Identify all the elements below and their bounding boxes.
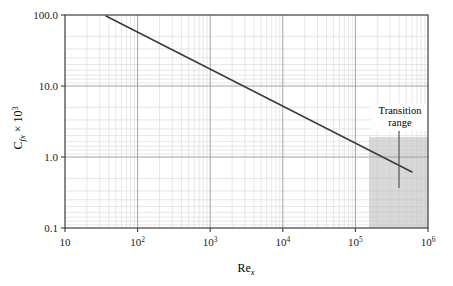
transition-range-annotation: Transition range — [371, 104, 429, 131]
y-axis-title: Cfx × 103 — [11, 107, 27, 150]
figure-container: Transition range 100.0 10.0 1.0 0.1 — [0, 0, 453, 286]
x-tick-label-1e4: 104 — [275, 235, 290, 248]
x-tick-label-1e5: 105 — [348, 235, 363, 248]
x-tick-labels: 10 102 103 104 105 106 — [60, 235, 436, 248]
y-tick-labels: 100.0 10.0 1.0 0.1 — [33, 9, 58, 234]
x-tick-marks — [65, 228, 428, 232]
x-tick-label-1e2: 102 — [130, 235, 145, 248]
series-laminar-skin-friction — [106, 16, 412, 172]
y-tick-label-100: 100.0 — [33, 9, 58, 21]
x-axis-title: Rex — [237, 261, 254, 277]
y-tick-label-10: 10.0 — [39, 80, 59, 92]
x-tick-label-1e6: 106 — [421, 235, 436, 248]
transition-annotation-line2: range — [388, 117, 412, 128]
log-log-chart: Transition range 100.0 10.0 1.0 0.1 — [0, 0, 453, 286]
x-tick-label-1e3: 103 — [203, 235, 218, 248]
y-tick-label-0.1: 0.1 — [44, 222, 58, 234]
transition-annotation-line1: Transition — [379, 105, 423, 116]
y-tick-label-1: 1.0 — [44, 151, 58, 163]
x-tick-label-10: 10 — [60, 236, 72, 248]
grid-major-vertical — [138, 15, 356, 228]
